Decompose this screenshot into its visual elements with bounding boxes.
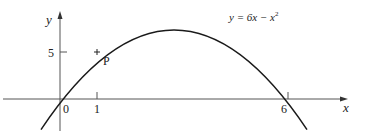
curve-equation-exponent: 2 (275, 10, 279, 18)
x-tick-label-1: 1 (94, 102, 100, 116)
x-axis (3, 97, 348, 102)
parabola-figure: y x 0 1 6 5 P y = 6x − x2 (0, 0, 365, 139)
point-p-marker (94, 49, 100, 55)
curve-equation-lhs: y = 6x − x (228, 11, 275, 23)
x-axis-label: x (342, 100, 349, 115)
curve-equation-label: y = 6x − x2 (228, 10, 279, 23)
x-tick-label-6: 6 (281, 102, 287, 116)
y-axis (58, 11, 63, 131)
parabola-curve (41, 30, 307, 130)
point-p-label: P (103, 54, 110, 68)
y-axis-label: y (44, 12, 52, 27)
origin-label: 0 (63, 102, 69, 116)
y-tick-label-5: 5 (48, 46, 54, 60)
y-axis-arrow-icon (58, 11, 63, 19)
